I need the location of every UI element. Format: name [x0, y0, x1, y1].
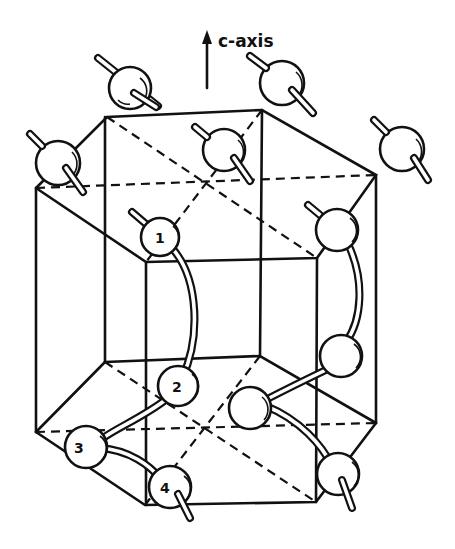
atom-top-right	[374, 120, 428, 180]
c-axis-label: c-axis	[218, 31, 274, 51]
atom-top-back-right	[250, 56, 313, 113]
crystal-structure-diagram: c-axis	[0, 0, 455, 549]
left-helix-chain: 1 2 3 4	[65, 212, 199, 518]
atom-top-back-left	[98, 58, 158, 109]
atom-2-label: 2	[172, 379, 182, 395]
atom-right-lower	[229, 387, 271, 429]
atom-right-upper	[316, 209, 358, 251]
atom-top-left	[30, 134, 83, 192]
atom-1-label: 1	[155, 230, 165, 246]
atom-right-middle	[320, 335, 362, 377]
atom-4-label: 4	[160, 480, 170, 496]
c-axis-arrow	[202, 30, 212, 88]
atom-3-label: 3	[74, 440, 84, 456]
atom-right-bottom	[317, 453, 359, 495]
atom-3	[65, 426, 107, 468]
